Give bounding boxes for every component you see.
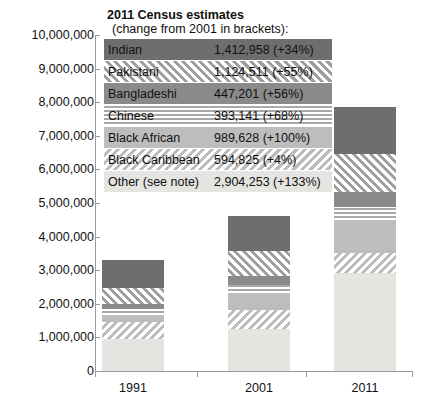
legend-value: 1,412,958 (+34%) bbox=[214, 43, 314, 57]
legend-label: Pakistani bbox=[108, 65, 214, 79]
bar-1991 bbox=[102, 260, 164, 371]
y-axis-tick-label: 2,000,000 bbox=[2, 298, 94, 310]
y-axis-tick-mark bbox=[95, 136, 100, 137]
bar-2011 bbox=[334, 107, 396, 371]
stacked-bar-chart: 10,000,0009,000,0008,000,0007,000,0006,0… bbox=[0, 0, 427, 411]
y-axis-tick-mark bbox=[95, 102, 100, 103]
legend-value: 989,628 (+100%) bbox=[214, 131, 310, 145]
legend-text: Black Caribbean594,825 (+4%) bbox=[104, 149, 332, 170]
legend-row: Black Caribbean594,825 (+4%) bbox=[104, 149, 332, 170]
x-axis-tick-mark bbox=[197, 371, 198, 377]
legend-text: Other (see note)2,904,253 (+133%) bbox=[104, 171, 332, 192]
y-axis-tick-mark bbox=[95, 169, 100, 170]
bar-segment-black-african bbox=[228, 293, 290, 310]
y-axis-tick-label: 8,000,000 bbox=[2, 96, 94, 108]
bar-segment-indian bbox=[334, 107, 396, 154]
bar-segment-black-caribbean bbox=[102, 322, 164, 339]
bar-segment-black-african bbox=[334, 220, 396, 253]
legend-label: Black Caribbean bbox=[108, 153, 214, 167]
x-axis-tick-mark bbox=[412, 371, 413, 377]
legend-text: Chinese393,141 (+68%) bbox=[104, 105, 332, 126]
bar-segment-other-see-note bbox=[334, 273, 396, 371]
y-axis-tick-label: 1,000,000 bbox=[2, 331, 94, 343]
legend-title: 2011 Census estimates bbox=[104, 8, 332, 22]
legend-row: Indian1,412,958 (+34%) bbox=[104, 39, 332, 60]
bar-segment-pakistani bbox=[102, 288, 164, 304]
y-axis-tick-label: 5,000,000 bbox=[2, 197, 94, 209]
legend-label: Indian bbox=[108, 43, 214, 57]
y-axis-tick-label: 0 bbox=[2, 365, 94, 377]
x-axis-tick-label: 2001 bbox=[219, 381, 299, 395]
y-axis-tick-mark bbox=[95, 35, 100, 36]
legend-label: Chinese bbox=[108, 109, 214, 123]
bar-segment-black-caribbean bbox=[228, 310, 290, 329]
y-axis-tick-label: 3,000,000 bbox=[2, 264, 94, 276]
legend-row: Other (see note)2,904,253 (+133%) bbox=[104, 171, 332, 192]
bar-segment-indian bbox=[102, 260, 164, 288]
y-axis-tick-mark bbox=[95, 270, 100, 271]
bar-segment-black-african bbox=[102, 315, 164, 322]
bar-segment-black-caribbean bbox=[334, 253, 396, 273]
y-axis-tick-mark bbox=[95, 237, 100, 238]
bar-segment-chinese bbox=[228, 285, 290, 293]
y-axis-tick-label: 10,000,000 bbox=[2, 29, 94, 41]
y-axis-tick-mark bbox=[95, 203, 100, 204]
legend-value: 447,201 (+56%) bbox=[214, 87, 303, 101]
bar-segment-bangladeshi bbox=[334, 192, 396, 207]
x-axis-tick-mark bbox=[95, 371, 96, 377]
legend-label: Black African bbox=[108, 131, 214, 145]
legend-text: Pakistani1,124,511 (+55%) bbox=[104, 61, 332, 82]
y-axis-tick-mark bbox=[95, 69, 100, 70]
bar-segment-chinese bbox=[334, 207, 396, 220]
legend-text: Bangladeshi447,201 (+56%) bbox=[104, 83, 332, 104]
legend-row: Bangladeshi447,201 (+56%) bbox=[104, 83, 332, 104]
bar-segment-other-see-note bbox=[228, 329, 290, 371]
x-axis-tick-label: 2011 bbox=[325, 381, 405, 395]
x-axis-line bbox=[95, 371, 413, 372]
legend-value: 393,141 (+68%) bbox=[214, 109, 303, 123]
legend-value: 594,825 (+4%) bbox=[214, 153, 296, 167]
y-axis-tick-mark bbox=[95, 337, 100, 338]
bar-segment-bangladeshi bbox=[102, 304, 164, 309]
legend-label: Other (see note) bbox=[108, 175, 214, 189]
bar-segment-other-see-note bbox=[102, 339, 164, 371]
bar-segment-chinese bbox=[102, 309, 164, 314]
bar-segment-bangladeshi bbox=[228, 276, 290, 286]
legend-text: Indian1,412,958 (+34%) bbox=[104, 39, 332, 60]
y-axis-tick-label: 7,000,000 bbox=[2, 130, 94, 142]
x-axis-tick-mark bbox=[306, 371, 307, 377]
legend-row: Chinese393,141 (+68%) bbox=[104, 105, 332, 126]
y-axis-tick-label: 4,000,000 bbox=[2, 231, 94, 243]
legend-row: Black African989,628 (+100%) bbox=[104, 127, 332, 148]
chart-legend: 2011 Census estimates (change from 2001 … bbox=[104, 8, 332, 193]
bar-segment-indian bbox=[228, 216, 290, 251]
y-axis-labels: 10,000,0009,000,0008,000,0007,000,0006,0… bbox=[0, 0, 94, 411]
legend-text: Black African989,628 (+100%) bbox=[104, 127, 332, 148]
legend-rows: Indian1,412,958 (+34%)Pakistani1,124,511… bbox=[104, 39, 332, 192]
legend-row: Pakistani1,124,511 (+55%) bbox=[104, 61, 332, 82]
legend-value: 2,904,253 (+133%) bbox=[214, 175, 321, 189]
bar-segment-pakistani bbox=[334, 154, 396, 192]
y-axis-tick-label: 9,000,000 bbox=[2, 63, 94, 75]
legend-label: Bangladeshi bbox=[108, 87, 214, 101]
legend-value: 1,124,511 (+55%) bbox=[214, 65, 313, 79]
x-axis-tick-label: 1991 bbox=[93, 381, 173, 395]
y-axis-tick-label: 6,000,000 bbox=[2, 163, 94, 175]
bar-segment-pakistani bbox=[228, 251, 290, 275]
legend-subtitle: (change from 2001 in brackets): bbox=[104, 22, 332, 37]
y-axis-tick-mark bbox=[95, 304, 100, 305]
bar-2001 bbox=[228, 216, 290, 371]
